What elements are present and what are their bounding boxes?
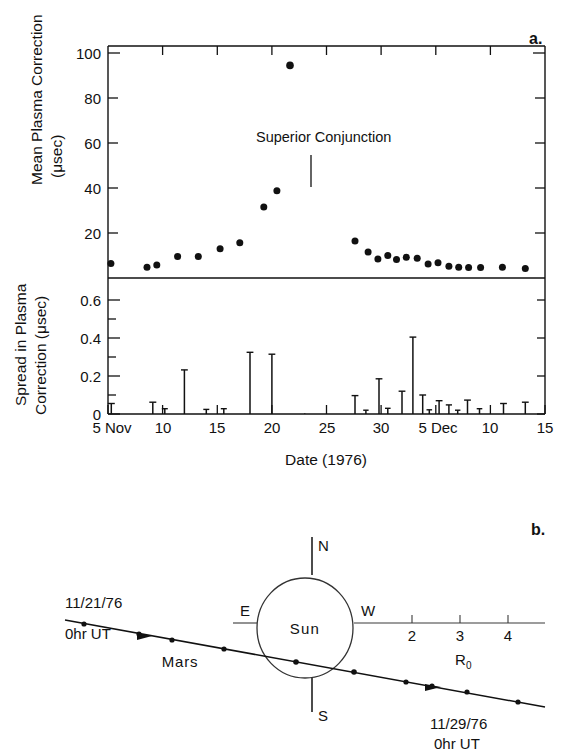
xtick-label-30nov: 30 (373, 419, 390, 436)
mars-dot (429, 683, 434, 688)
west-label: W (361, 602, 376, 619)
datapoint (435, 259, 442, 266)
figure-container: a. (0, 0, 578, 756)
rsun-unit-subscript: 0 (466, 660, 472, 671)
panel-a-yaxis-title-line2: (μsec) (48, 135, 65, 178)
panel-spread-ytick-label-06: 0.6 (80, 292, 101, 309)
spread-bar (436, 401, 443, 414)
datapoint (445, 263, 452, 270)
xtick-label-25nov: 25 (319, 419, 336, 436)
datapoint (144, 264, 151, 271)
datapoint (352, 237, 359, 244)
datapoint (522, 265, 529, 272)
spread-bar (181, 370, 188, 414)
xtick-label-15nov: 15 (209, 419, 226, 436)
panel-a-datapoints (107, 62, 528, 272)
datapoint (403, 254, 410, 261)
mars-dot (351, 669, 357, 675)
datapoint (195, 253, 202, 260)
datapoint (499, 264, 506, 271)
spread-bar (522, 402, 529, 414)
mars-dot (515, 699, 520, 704)
spread-bar (385, 408, 391, 414)
spread-bar (419, 395, 426, 414)
datapoint (236, 239, 243, 246)
datapoint (107, 260, 114, 267)
rsun-tick-label-3: 3 (456, 627, 464, 644)
datapoint (477, 264, 484, 271)
spread-bar (477, 409, 483, 414)
mars-dot (169, 637, 174, 642)
mars-label: Mars (162, 653, 199, 670)
end-date-line2: 0hr UT (434, 735, 480, 752)
panel-spread-y-ticks (108, 300, 545, 414)
datapoint (374, 255, 381, 262)
panel-spread-ytick-label-04: 0.4 (80, 330, 101, 347)
datapoint (174, 253, 181, 260)
superior-conjunction-label: Superior Conjunction (256, 129, 391, 145)
datapoint (414, 255, 421, 262)
north-label: N (318, 537, 329, 554)
south-label: S (318, 707, 328, 724)
mars-dot (136, 631, 141, 636)
xtick-label-10dec: 10 (482, 419, 499, 436)
panel-a-ytick-label-80: 80 (84, 90, 101, 107)
xaxis-title: Date (1976) (285, 451, 367, 468)
spread-bar (149, 402, 156, 414)
datapoint (260, 204, 267, 211)
spread-bar (410, 337, 417, 414)
xtick-label-10nov: 10 (155, 419, 172, 436)
datapoint (455, 264, 462, 271)
end-date-line1: 11/29/76 (430, 715, 487, 732)
datapoint (384, 252, 391, 259)
panel-spread-yaxis-title-line1: Spread in Plasma (12, 283, 29, 406)
datapoint (153, 261, 160, 268)
rsun-unit-label: R (455, 651, 466, 668)
east-label: E (240, 602, 250, 619)
panel-a-ytick-label-60: 60 (84, 135, 101, 152)
start-date-line1: 11/21/76 (65, 594, 122, 611)
mars-dot (464, 689, 469, 694)
panel-spread-ytick-label-02: 0.2 (80, 368, 101, 385)
spread-bar (399, 391, 406, 414)
panel-spread-plot: 0 0.2 0.4 0.6 Spread in Plasma Correctio… (12, 278, 553, 468)
spread-bar (247, 352, 254, 414)
spread-bar (464, 400, 471, 414)
datapoint (393, 256, 400, 263)
spread-bar (221, 409, 227, 414)
panel-a-ytick-label-20: 20 (84, 225, 101, 242)
datapoint (465, 264, 472, 271)
xtick-label-5dec: 5 Dec (418, 419, 458, 436)
spread-bar (352, 396, 359, 414)
spread-bar (269, 354, 276, 414)
panel-spread-xtick-labels: 5 Nov 10 15 20 25 30 5 Dec 10 15 (92, 419, 553, 436)
panel-spread-bars (108, 337, 529, 414)
rsun-tick-label-2: 2 (408, 627, 416, 644)
panel-a-ytick-label-40: 40 (84, 180, 101, 197)
panel-a-ytick-label-100: 100 (76, 45, 101, 62)
mars-dot (221, 646, 226, 651)
rsun-scale-ticks (412, 615, 508, 623)
spread-bar (108, 404, 115, 415)
spread-bar (500, 404, 507, 415)
mars-dot (403, 679, 408, 684)
datapoint (425, 261, 432, 268)
panel-b-diagram: Sun N S E W 2 3 4 R 0 (65, 537, 545, 752)
panel-b-letter: b. (531, 521, 545, 538)
sun-label: Sun (290, 620, 320, 637)
scientific-figure: a. (0, 0, 578, 756)
datapoint (273, 187, 280, 194)
datapoint (286, 62, 294, 70)
panel-a-letter: a. (529, 30, 542, 47)
panel-a-top-ticks (163, 46, 491, 55)
datapoint (217, 245, 224, 252)
xtick-label-20nov: 20 (264, 419, 281, 436)
rsun-tick-label-4: 4 (504, 627, 512, 644)
start-date-line2: 0hr UT (65, 625, 111, 642)
datapoint (365, 249, 372, 256)
panel-a-plot: 20 40 60 80 100 Mean Plasma Correction (… (28, 14, 545, 278)
panel-a-yaxis-title-line1: Mean Plasma Correction (28, 14, 45, 185)
panel-spread-yaxis-title-line2: Correction (μsec) (32, 296, 49, 415)
xtick-label-5nov: 5 Nov (92, 419, 132, 436)
xtick-label-15dec: 15 (537, 419, 554, 436)
